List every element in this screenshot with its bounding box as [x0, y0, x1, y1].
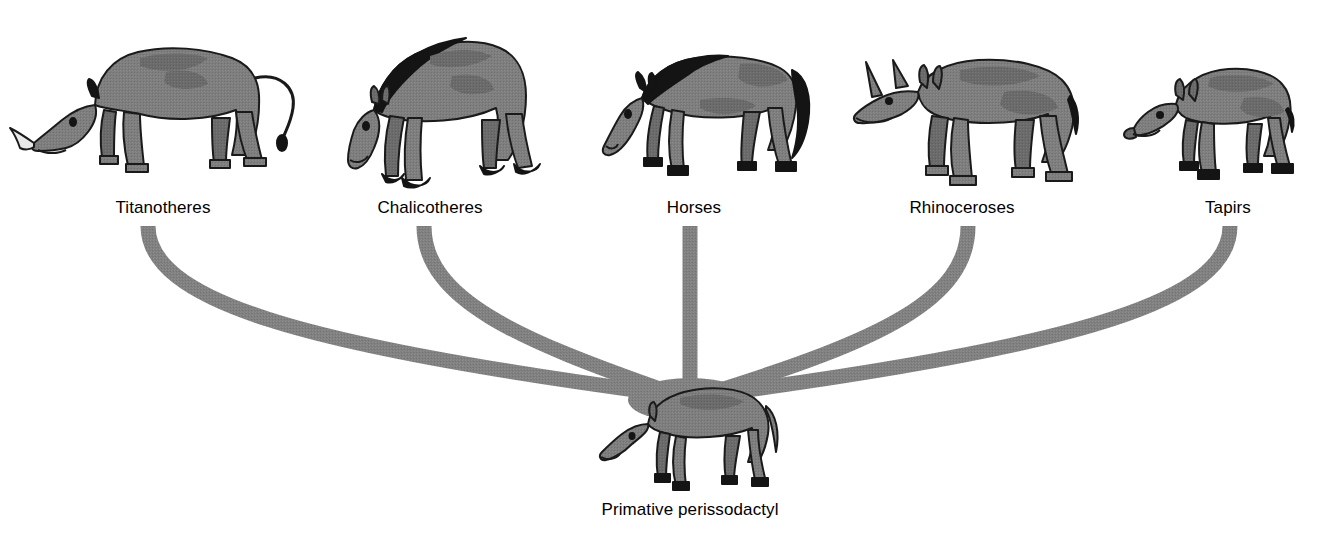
- chalicothere-ear-1: [371, 86, 380, 104]
- rhino-hindleg-far: [1015, 120, 1035, 170]
- chalicothere-hindleg-near: [506, 114, 532, 168]
- titanothere-foot-4: [244, 158, 266, 166]
- rhino-foreleg-near: [951, 118, 972, 178]
- tree-diagram-svg: [0, 0, 1324, 535]
- rhino-eye: [885, 97, 893, 105]
- rhino-foot-1: [926, 166, 948, 175]
- rhino-foot-2: [950, 176, 976, 185]
- titanothere-ear: [88, 79, 99, 98]
- titanothere-hindleg-far: [212, 118, 230, 162]
- root-animal-hoof-4: [752, 478, 768, 486]
- chalicothere-foreleg-near: [405, 118, 422, 180]
- titanothere-tail-tuft: [277, 135, 287, 151]
- tapir-foreleg-near: [1199, 122, 1216, 172]
- rhino-horn-rear: [893, 60, 908, 88]
- tapir-foot-4: [1272, 164, 1293, 173]
- chalicothere-eye: [362, 121, 370, 131]
- titanothere-foreleg-far: [101, 110, 116, 158]
- tapir-foot-2: [1198, 170, 1219, 179]
- root-animal-hoof-3: [722, 476, 737, 484]
- animal-chalicotheres: [348, 38, 540, 188]
- animal-tapirs: [1124, 69, 1294, 179]
- root-taxon-label: Primative perissodactyl: [601, 500, 778, 520]
- root-animal-eye: [629, 432, 636, 440]
- horse-hindleg-far: [741, 112, 760, 166]
- titanothere-foot-3: [210, 160, 230, 168]
- taxon-label-chalicotheres: Chalicotheres: [377, 198, 482, 218]
- horse-foreleg-near: [669, 110, 684, 170]
- chalicothere-ear-2: [382, 86, 390, 104]
- root-animal-hindleg-far: [725, 436, 741, 480]
- horse-hoof-4: [776, 162, 796, 171]
- tapir-ear-1: [1175, 79, 1184, 100]
- animal-horses: [603, 56, 809, 175]
- horse-hoof-1: [644, 158, 662, 166]
- root-animal-hoof-1: [655, 474, 670, 482]
- rhino-horn-front: [866, 62, 882, 97]
- root-animal-foreleg-near: [673, 436, 686, 486]
- taxon-label-rhinoceroses: Rhinoceroses: [909, 198, 1014, 218]
- tapir-foreleg-far: [1183, 120, 1198, 164]
- titanothere-foot-2: [126, 164, 148, 172]
- tapir-head: [1133, 104, 1178, 135]
- chalicothere-foreleg-far: [385, 116, 404, 176]
- titanothere-foot-1: [100, 156, 118, 164]
- horse-hoof-3: [738, 162, 756, 170]
- horse-head: [603, 98, 643, 155]
- taxon-label-tapirs: Tapirs: [1205, 198, 1251, 218]
- tapir-hindleg-far: [1247, 124, 1263, 166]
- titanothere-foreleg-near: [123, 112, 144, 166]
- perissodactyl-phylogeny-figure: Titanotheres Chalicotheres Horses Rhinoc…: [0, 0, 1324, 535]
- horse-foreleg-far: [647, 106, 664, 162]
- horse-ear-1: [636, 72, 646, 92]
- tapir-foot-3: [1244, 164, 1262, 172]
- animal-primative-perissodactyl: [600, 388, 778, 490]
- titanothere-eye: [69, 117, 77, 127]
- root-animal-hoof-2: [673, 482, 689, 490]
- tapir-eye: [1156, 111, 1164, 119]
- titanothere-horn: [10, 128, 34, 149]
- rhino-foot-3: [1012, 168, 1034, 177]
- branch-group: [148, 226, 1230, 392]
- root-animal-head: [600, 424, 648, 460]
- rhino-foreleg-far: [929, 116, 948, 168]
- animal-titanotheres: [10, 48, 293, 172]
- titanothere-head: [32, 105, 96, 151]
- animal-rhinoceroses: [854, 60, 1078, 185]
- horse-eye: [624, 109, 632, 119]
- tapir-foot-1: [1180, 162, 1198, 170]
- rhino-head: [854, 91, 918, 123]
- titanothere-tail: [255, 77, 293, 138]
- branch-titanotheres: [148, 226, 650, 392]
- tapir-snout: [1124, 128, 1136, 139]
- horse-hoof-2: [668, 166, 688, 175]
- taxon-label-titanotheres: Titanotheres: [115, 198, 210, 218]
- taxon-label-horses: Horses: [667, 198, 721, 218]
- root-animal-foreleg-far: [657, 432, 670, 478]
- rhino-foot-4: [1046, 172, 1072, 181]
